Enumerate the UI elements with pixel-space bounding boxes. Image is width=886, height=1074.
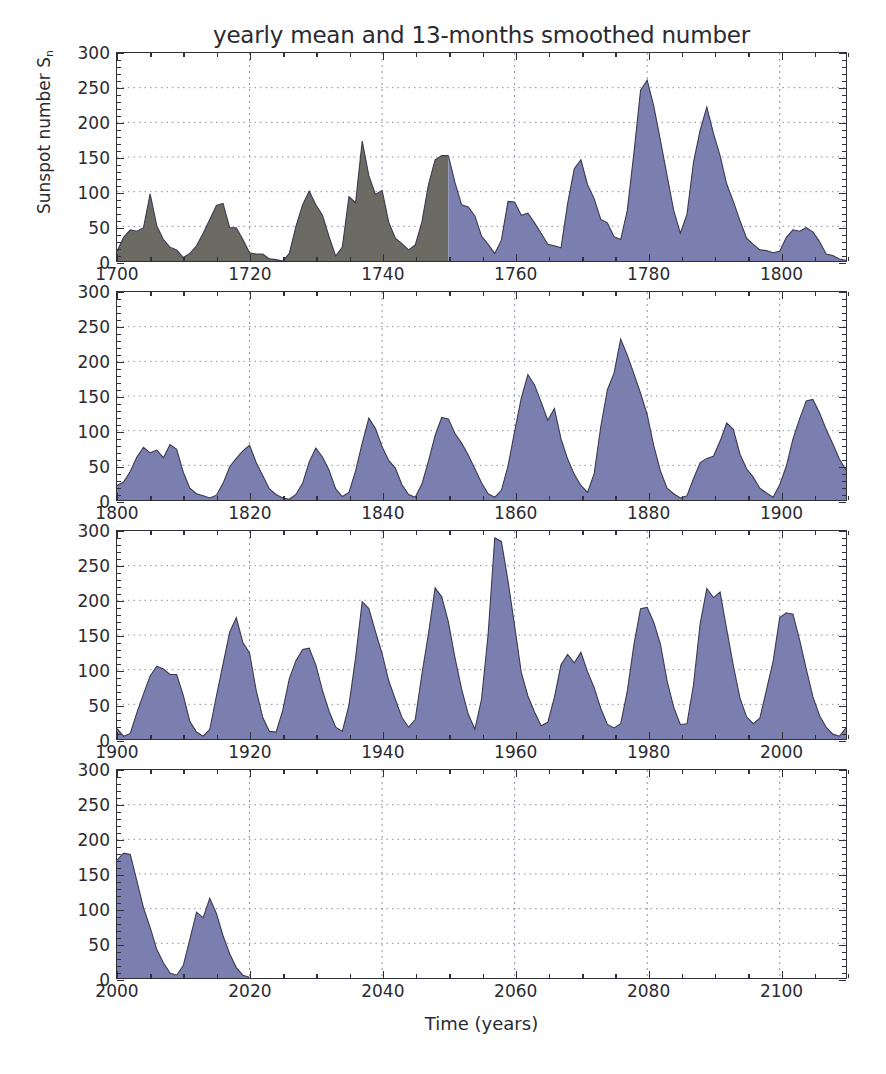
- y-tick-label: 50: [88, 935, 110, 955]
- y-tick-label: 300: [78, 43, 110, 63]
- y-tick-label: 50: [88, 696, 110, 716]
- x-tick-label: 2000: [95, 981, 138, 1001]
- sunspot-figure: yearly mean and 13-months smoothed numbe…: [0, 0, 886, 1074]
- y-axis-label: Sunspot number Sn: [34, 2, 54, 262]
- x-tick-label: 1900: [95, 742, 138, 762]
- y-tick-label: 200: [78, 591, 110, 611]
- y-tick-label: 50: [88, 457, 110, 477]
- x-tick-label: 2000: [760, 742, 803, 762]
- modern-area: [448, 80, 846, 261]
- x-axis-label: Time (years): [116, 1013, 847, 1034]
- y-axis-label-text: Sunspot number S: [34, 57, 54, 214]
- series-plot: [117, 292, 846, 500]
- series-plot: [117, 53, 846, 261]
- plot-area: [117, 531, 846, 739]
- x-tick-label: 2080: [627, 981, 670, 1001]
- x-tick-label: 1920: [228, 742, 271, 762]
- y-tick-label: 150: [78, 387, 110, 407]
- chart-panel-2000-2110: 0501001502002503002000202020402060208021…: [116, 769, 847, 979]
- x-tick-label: 1740: [361, 264, 404, 284]
- y-tick-label: 100: [78, 900, 110, 920]
- y-tick-label: 300: [78, 760, 110, 780]
- y-tick-label: 250: [78, 556, 110, 576]
- x-tick-label: 1820: [228, 503, 271, 523]
- x-tick-label: 1800: [760, 264, 803, 284]
- y-tick-label: 150: [78, 626, 110, 646]
- series-plot: [117, 770, 846, 978]
- y-tick-label: 100: [78, 661, 110, 681]
- y-tick-label: 150: [78, 865, 110, 885]
- x-tick-label: 1940: [361, 742, 404, 762]
- y-tick-label: 50: [88, 218, 110, 238]
- series-plot: [117, 531, 846, 739]
- y-tick-label: 100: [78, 183, 110, 203]
- y-tick-label: 200: [78, 830, 110, 850]
- x-tick-label: 2020: [228, 981, 271, 1001]
- y-tick-label: 300: [78, 282, 110, 302]
- x-tick-label: 1980: [627, 742, 670, 762]
- chart-panel-1800-1910: 0501001502002503001800182018401860188019…: [116, 291, 847, 501]
- x-tick-label: 2040: [361, 981, 404, 1001]
- page-title: yearly mean and 13-months smoothed numbe…: [116, 22, 847, 48]
- y-tick-label: 200: [78, 352, 110, 372]
- x-tick-label: 1860: [494, 503, 537, 523]
- x-tick-label: 1760: [494, 264, 537, 284]
- x-tick-label: 1840: [361, 503, 404, 523]
- y-tick-label: 200: [78, 113, 110, 133]
- y-tick-label: 250: [78, 795, 110, 815]
- x-tick-label: 1700: [95, 264, 138, 284]
- x-tick-label: 1880: [627, 503, 670, 523]
- modern-area: [117, 853, 250, 978]
- plot-area: [117, 292, 846, 500]
- y-tick-label: 300: [78, 521, 110, 541]
- x-tick-label: 2100: [760, 981, 803, 1001]
- x-tick-label: 1720: [228, 264, 271, 284]
- y-tick-label: 100: [78, 422, 110, 442]
- x-tick-label: 1800: [95, 503, 138, 523]
- y-tick-label: 250: [78, 317, 110, 337]
- x-tick-label: 1960: [494, 742, 537, 762]
- plot-area: [117, 770, 846, 978]
- x-tick-label: 1900: [760, 503, 803, 523]
- x-tick-label: 1780: [627, 264, 670, 284]
- x-tick-label: 2060: [494, 981, 537, 1001]
- y-tick-label: 250: [78, 78, 110, 98]
- modern-area: [117, 538, 846, 739]
- y-axis-label-subscript: n: [43, 50, 56, 57]
- chart-panel-1700-1810: 0501001502002503001700172017401760178018…: [116, 52, 847, 262]
- chart-panel-1900-2010: 0501001502002503001900192019401960198020…: [116, 530, 847, 740]
- plot-area: [117, 53, 846, 261]
- y-tick-label: 150: [78, 148, 110, 168]
